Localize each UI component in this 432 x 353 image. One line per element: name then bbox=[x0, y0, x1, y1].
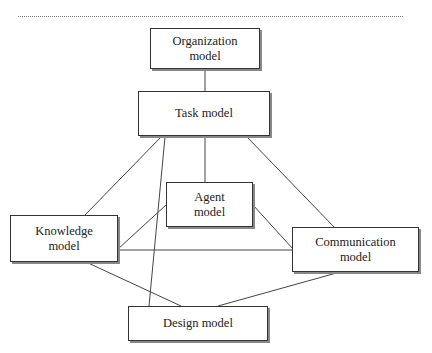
node-label: Communication bbox=[315, 235, 396, 250]
edge-task-communication bbox=[247, 137, 335, 228]
knowledge-model-node: Knowledgemodel bbox=[10, 215, 118, 262]
node-label: Task model bbox=[175, 106, 233, 121]
node-label: Knowledge bbox=[35, 224, 93, 239]
organization-model-node: Organizationmodel bbox=[150, 28, 260, 69]
node-label: model bbox=[194, 205, 225, 220]
edge-agent-communication bbox=[253, 205, 293, 249]
edge-task-design bbox=[149, 137, 165, 306]
node-label: model bbox=[35, 239, 93, 254]
edge-communication-design bbox=[218, 272, 340, 306]
communication-model-node: Communicationmodel bbox=[292, 227, 419, 272]
node-label: Agent bbox=[194, 190, 225, 205]
node-label: Organization bbox=[172, 34, 237, 49]
design-model-node: Design model bbox=[128, 306, 268, 341]
node-label: model bbox=[315, 250, 396, 265]
node-label: model bbox=[172, 49, 237, 64]
node-label: Design model bbox=[163, 316, 233, 331]
agent-model-node: Agentmodel bbox=[166, 182, 253, 227]
edge-task-knowledge bbox=[85, 137, 161, 215]
edge-agent-knowledge bbox=[118, 205, 166, 249]
edge-knowledge-design bbox=[86, 262, 181, 306]
task-model-node: Task model bbox=[138, 91, 270, 136]
